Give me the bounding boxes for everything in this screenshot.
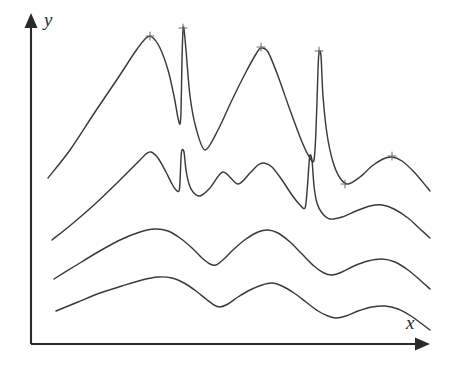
y-axis-label: y xyxy=(44,10,52,29)
peak-markers-group xyxy=(146,24,396,188)
x-axis-label: x xyxy=(406,313,414,332)
peak-marker xyxy=(388,152,396,160)
peak-marker xyxy=(179,24,187,32)
peak-marker xyxy=(315,47,323,55)
y-axis-arrowhead xyxy=(25,13,38,28)
curve-3 xyxy=(54,229,430,289)
figure-root: y x xyxy=(0,0,450,369)
x-axis-arrowhead xyxy=(415,338,430,351)
curve-4 xyxy=(56,277,430,330)
curve-1 xyxy=(48,27,430,191)
peak-marker xyxy=(146,32,154,40)
curves-group xyxy=(48,27,430,330)
curve-2 xyxy=(52,149,430,240)
axes-group xyxy=(25,13,431,351)
plot-canvas xyxy=(0,0,450,369)
